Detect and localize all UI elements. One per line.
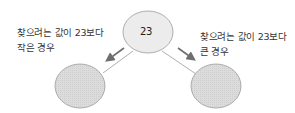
left-label-line2: 작은 경우 — [17, 41, 55, 55]
arrow-left-icon — [109, 48, 124, 59]
right-label-line1: 찾으려는 값이 23보다 — [200, 30, 287, 44]
left-child-node — [55, 64, 105, 108]
tree-diagram — [0, 0, 295, 113]
left-label-line1: 찾으려는 값이 23보다 — [17, 26, 104, 40]
arrow-right-icon — [178, 48, 192, 58]
root-value: 23 — [140, 25, 152, 39]
edge-left — [103, 51, 133, 73]
right-label-line2: 큰 경우 — [200, 45, 229, 59]
edge-right — [162, 51, 196, 74]
right-child-node — [191, 64, 241, 108]
